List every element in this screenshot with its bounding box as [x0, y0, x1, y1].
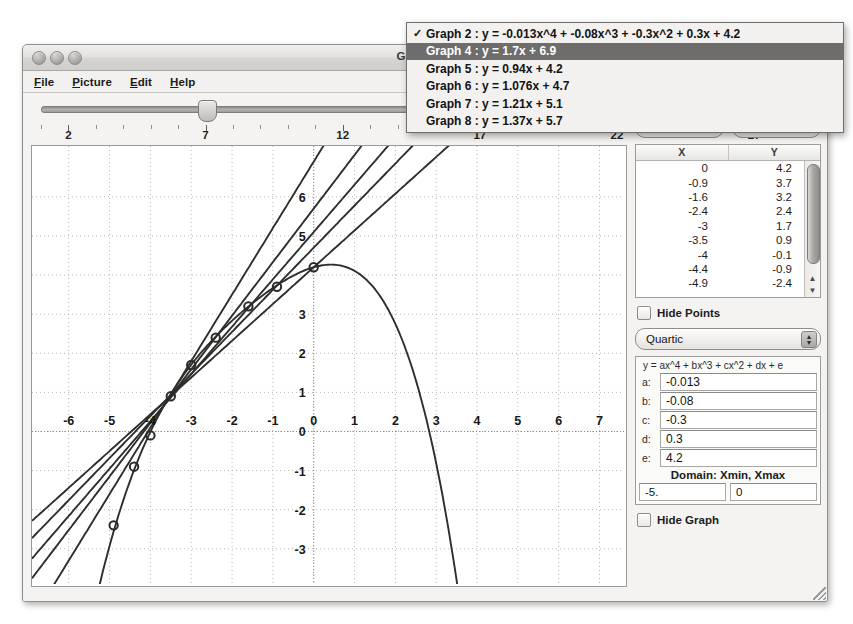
graph-menu-item-label: Graph 6 : y = 1.076x + 4.7 [426, 79, 569, 93]
coefficient-input[interactable]: -0.013 [660, 373, 817, 391]
slider-tick-label: 2 [65, 129, 71, 141]
curve-graph-8 [32, 146, 624, 578]
table-row[interactable]: -4.9-2.4 [636, 276, 804, 290]
menu-picture[interactable]: Picture [69, 75, 115, 89]
table-row[interactable]: -0.93.7 [636, 175, 804, 189]
table-row[interactable]: -4.4-0.9 [636, 262, 804, 276]
x-tick-label: -5 [104, 414, 115, 428]
column-header-y: Y [729, 145, 821, 160]
y-tick-label: -3 [295, 543, 306, 557]
formula-label: y = ax^4 + bx^3 + cx^2 + dx + e [639, 359, 817, 373]
y-tick-label: 0 [299, 425, 306, 439]
graph-canvas[interactable]: -6-5-4-3-2-101234567-3-2-1012356 [31, 145, 627, 587]
hide-points-checkbox[interactable] [637, 306, 651, 320]
cell-y: -2.4 [720, 277, 804, 289]
cell-y: 3.7 [720, 177, 804, 189]
graph-menu-item[interactable]: Graph 7 : y = 1.21x + 5.1 [407, 95, 843, 113]
hide-points-row[interactable]: Hide Points [637, 306, 821, 320]
slider-tick-label: 12 [336, 129, 349, 141]
xmin-field[interactable]: -5. [639, 483, 726, 501]
coefficient-row: a:-0.013 [639, 373, 817, 391]
coefficient-label: d: [639, 433, 656, 445]
coefficient-panel: y = ax^4 + bx^3 + cx^2 + dx + e a:-0.013… [635, 356, 821, 505]
hide-graph-row[interactable]: Hide Graph [637, 513, 821, 527]
y-tick-label: 6 [299, 191, 306, 205]
graph-menu-item[interactable]: Graph 4 : y = 1.7x + 6.9 [407, 43, 843, 61]
table-row[interactable]: -3.50.9 [636, 233, 804, 247]
graph-menu-item[interactable]: Graph 5 : y = 0.94x + 4.2 [407, 60, 843, 78]
coefficient-label: e: [639, 452, 656, 464]
y-tick-label: 1 [299, 386, 306, 400]
curve-graph-6 [32, 146, 624, 538]
table-row[interactable]: 04.2 [636, 161, 804, 175]
coefficient-label: b: [639, 395, 656, 407]
graph-menu-item[interactable]: Graph 8 : y = 1.37x + 5.7 [407, 113, 843, 131]
coefficient-fields: a:-0.013b:-0.08c:-0.3d:0.3e:4.2 [639, 373, 817, 467]
x-tick-label: -2 [226, 414, 237, 428]
x-tick-label: -1 [267, 414, 278, 428]
coefficient-row: e:4.2 [639, 449, 817, 467]
graph-plot: -6-5-4-3-2-101234567-3-2-1012356 [32, 146, 624, 584]
graph-selector-menu[interactable]: ✓Graph 2 : y = -0.013x^4 + -0.08x^3 + -0… [406, 22, 844, 133]
polynomial-degree-select[interactable]: Quartic ▲▼ [635, 328, 821, 350]
y-tick-label: -1 [295, 465, 306, 479]
table-body[interactable]: 04.2-0.93.7-1.63.2-2.42.4-31.7-3.50.9-4-… [636, 161, 804, 297]
hide-graph-label: Hide Graph [657, 514, 719, 526]
curve-graph-5 [32, 146, 624, 521]
x-tick-label: 6 [555, 414, 562, 428]
coefficient-input[interactable]: -0.08 [660, 392, 817, 410]
coefficient-input[interactable]: -0.3 [660, 411, 817, 429]
x-tick-label: 2 [392, 414, 399, 428]
y-tick-label: -2 [295, 504, 306, 518]
slider-thumb[interactable] [198, 100, 217, 122]
table-scrollbar[interactable]: ▲ ▼ [804, 161, 820, 297]
cell-x: -4.9 [636, 277, 720, 289]
coefficient-row: d:0.3 [639, 430, 817, 448]
coefficient-input[interactable]: 4.2 [660, 449, 817, 467]
scroll-down-icon[interactable]: ▼ [807, 285, 818, 296]
slider-tick-label: 7 [202, 129, 208, 141]
table-row[interactable]: -1.63.2 [636, 190, 804, 204]
side-controls: Add Remove X Y 04.2-0.93.7-1.63.2-2.42.4… [635, 117, 821, 535]
x-tick-label: 0 [310, 414, 317, 428]
domain-row: -5. 0 [639, 483, 817, 501]
x-tick-label: 7 [596, 414, 603, 428]
hide-graph-checkbox[interactable] [637, 513, 651, 527]
resize-grip-icon[interactable] [813, 587, 826, 600]
x-tick-label: 1 [351, 414, 358, 428]
table-row[interactable]: -31.7 [636, 219, 804, 233]
graph-menu-item-label: Graph 5 : y = 0.94x + 4.2 [426, 62, 563, 76]
table-row[interactable]: -2.42.4 [636, 204, 804, 218]
curve-graph-7 [32, 146, 624, 558]
degree-value: Quartic [646, 333, 683, 345]
menu-edit[interactable]: Edit [127, 75, 155, 89]
y-tick-label: 3 [299, 308, 306, 322]
graph-menu-item-label: Graph 7 : y = 1.21x + 5.1 [426, 97, 563, 111]
cell-x: -2.4 [636, 205, 720, 217]
column-header-x: X [636, 145, 728, 160]
cell-x: -3.5 [636, 234, 720, 246]
cell-x: -0.9 [636, 177, 720, 189]
coefficient-input[interactable]: 0.3 [660, 430, 817, 448]
xmax-field[interactable]: 0 [730, 483, 817, 501]
hide-points-label: Hide Points [657, 307, 720, 319]
cell-x: -3 [636, 220, 720, 232]
menu-help[interactable]: Help [167, 75, 198, 89]
menu-file[interactable]: File [31, 75, 57, 89]
coefficient-row: b:-0.08 [639, 392, 817, 410]
graph-menu-item-label: Graph 8 : y = 1.37x + 5.7 [426, 114, 563, 128]
coefficient-row: c:-0.3 [639, 411, 817, 429]
scroll-up-icon[interactable]: ▲ [807, 273, 818, 284]
scrollbar-thumb[interactable] [807, 164, 820, 264]
checkmark-icon: ✓ [413, 27, 426, 40]
cell-y: 3.2 [720, 191, 804, 203]
curve-group [32, 146, 624, 584]
graph-menu-item[interactable]: Graph 6 : y = 1.076x + 4.7 [407, 78, 843, 96]
graph-menu-item[interactable]: ✓Graph 2 : y = -0.013x^4 + -0.08x^3 + -0… [407, 25, 843, 43]
cell-y: 2.4 [720, 205, 804, 217]
graph-menu-item-label: Graph 2 : y = -0.013x^4 + -0.08x^3 + -0.… [426, 27, 740, 41]
xy-data-table[interactable]: X Y 04.2-0.93.7-1.63.2-2.42.4-31.7-3.50.… [635, 144, 821, 298]
chevron-updown-icon[interactable]: ▲▼ [801, 331, 817, 348]
table-row[interactable]: -4-0.1 [636, 247, 804, 261]
cell-x: 0 [636, 162, 720, 174]
